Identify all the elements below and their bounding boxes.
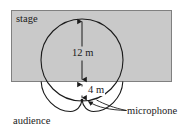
audience-label: audience: [13, 116, 50, 127]
microphone-pickup-diagram: stage 12 m 4 m microphone audience: [0, 0, 184, 133]
microphone-point: [81, 99, 84, 102]
microphone-label: microphone: [127, 106, 177, 117]
dimension-label-12m: 12 m: [71, 48, 94, 59]
dimension-label-4m: 4 m: [87, 85, 105, 96]
stage-label: stage: [16, 14, 38, 25]
lower-left-lobe: [41, 82, 82, 112]
